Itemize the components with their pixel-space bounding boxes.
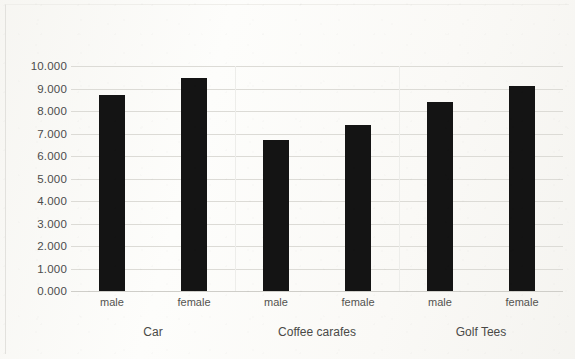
gridline	[71, 134, 563, 135]
y-axis-tick-label: 3.000	[5, 218, 67, 230]
bar	[427, 102, 453, 291]
y-axis-tick-label: 0.000	[5, 285, 67, 297]
x-axis-group-label: Golf Tees	[401, 325, 561, 339]
y-axis-tick-label: 6.000	[5, 150, 67, 162]
group-separator	[235, 66, 236, 291]
y-axis-tick-label: 9.000	[5, 83, 67, 95]
y-axis-labels: 0.0001.0002.0003.0004.0005.0006.0007.000…	[3, 66, 67, 291]
x-axis-group-label: Car	[73, 325, 233, 339]
gridline	[71, 66, 563, 67]
x-axis-tick-label: female	[487, 296, 557, 308]
y-axis-tick-label: 10.000	[5, 60, 67, 72]
chart-page: 0.0001.0002.0003.0004.0005.0006.0007.000…	[0, 0, 575, 359]
y-axis-tick-label: 2.000	[5, 240, 67, 252]
x-axis-tick-label: female	[323, 296, 393, 308]
bar	[509, 86, 535, 291]
gridline	[71, 89, 563, 90]
y-axis-tick-label: 4.000	[5, 195, 67, 207]
gridline	[71, 156, 563, 157]
bar	[263, 140, 289, 291]
x-axis-group-label: Coffee carafes	[237, 325, 397, 339]
gridline	[71, 111, 563, 112]
group-separator	[399, 66, 400, 291]
gridline	[71, 179, 563, 180]
bar	[181, 78, 207, 291]
plot-area	[71, 66, 563, 291]
bar	[99, 95, 125, 291]
x-axis-tick-label: female	[159, 296, 229, 308]
y-axis-tick-label: 8.000	[5, 105, 67, 117]
x-axis-labels: malefemalemalefemalemalefemale	[71, 296, 563, 316]
x-axis-group-labels: CarCoffee carafesGolf Tees	[71, 325, 563, 347]
gridline	[71, 269, 563, 270]
gridline	[71, 201, 563, 202]
gridline	[71, 224, 563, 225]
x-axis-tick-label: male	[241, 296, 311, 308]
y-axis-tick-label: 7.000	[5, 128, 67, 140]
gridline	[71, 246, 563, 247]
gridline	[71, 291, 563, 292]
y-axis-tick-label: 5.000	[5, 173, 67, 185]
x-axis-tick-label: male	[77, 296, 147, 308]
y-axis-tick-label: 1.000	[5, 263, 67, 275]
bar	[345, 125, 371, 292]
x-axis-tick-label: male	[405, 296, 475, 308]
